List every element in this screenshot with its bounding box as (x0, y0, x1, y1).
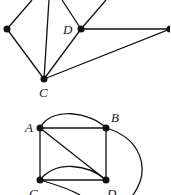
node-B (103, 125, 110, 132)
label-C-top: C (39, 85, 48, 100)
arc-C-D (40, 166, 106, 180)
label-D-top: D (62, 22, 73, 37)
node-C-top (41, 76, 48, 83)
edge-A-D (40, 128, 106, 180)
label-B: B (111, 110, 119, 125)
node-A (37, 125, 44, 132)
edge-C-up (44, 0, 49, 79)
node-D (103, 177, 110, 184)
node-left (4, 26, 11, 33)
edge-D-upright (81, 0, 106, 29)
arc-B-around (106, 128, 142, 195)
label-C: C (29, 186, 38, 195)
label-A: A (24, 120, 33, 135)
node-right (167, 26, 171, 33)
edge-left-C (7, 29, 44, 79)
edge-left-up (7, 0, 32, 29)
label-D: D (106, 186, 117, 195)
bottom-graph: A B C D (24, 110, 142, 195)
arc-A-B (40, 114, 106, 128)
top-graph: D C (4, 0, 171, 100)
graph-diagrams: D C A B C D (0, 0, 170, 195)
node-D-top (78, 26, 85, 33)
arc-C-down (40, 180, 80, 195)
node-C (37, 177, 44, 184)
